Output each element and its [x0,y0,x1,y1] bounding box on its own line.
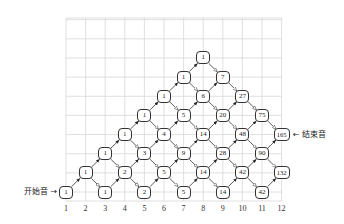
lattice-node: 1 [137,109,151,122]
lattice-node: 7 [216,71,230,84]
lattice-node: 9 [177,147,191,160]
column-label: 10 [234,204,250,214]
lattice-node: 1 [98,186,112,199]
lattice-node: 20 [216,109,230,122]
lattice-node: 42 [255,186,269,199]
end-label: 结束音 [302,130,326,139]
lattice-node: 14 [196,128,210,141]
column-label: 9 [215,204,231,214]
column-label: 7 [176,204,192,214]
lattice-node: 90 [255,147,269,160]
lattice-node: 1 [59,186,73,199]
lattice-node: 75 [255,109,269,122]
lattice-node: 132 [274,166,290,179]
lattice-node: 5 [157,166,171,179]
lattice-node: 48 [235,128,249,141]
column-label: 3 [97,204,113,214]
end-label-group: ← 结束音 [293,130,326,140]
lattice-diagram: 1125144212514421321392890141448165152075… [0,0,344,224]
column-label: 2 [78,204,94,214]
column-label: 12 [274,204,290,214]
column-label: 5 [136,204,152,214]
lattice-node: 14 [196,166,210,179]
end-arrow-icon: ← [293,130,300,139]
start-label-group: 开始音 → [24,187,57,197]
column-label: 4 [117,204,133,214]
lattice-node: 2 [137,186,151,199]
lattice-node: 6 [196,90,210,103]
lattice-node: 1 [98,147,112,160]
column-label: 6 [156,204,172,214]
lattice-node: 28 [216,147,230,160]
lattice-node: 1 [177,71,191,84]
lattice-node: 1 [196,51,210,64]
lattice-node: 165 [274,128,290,141]
lattice-node: 1 [118,128,132,141]
lattice-node: 3 [137,147,151,160]
column-label: 1 [58,204,74,214]
lattice-node: 4 [157,128,171,141]
lattice-node: 2 [118,166,132,179]
column-label: 8 [195,204,211,214]
lattice-node: 42 [235,166,249,179]
lattice-node: 27 [235,90,249,103]
lattice-node: 5 [177,186,191,199]
lattice-node: 14 [216,186,230,199]
column-label: 11 [254,204,270,214]
lattice-node: 1 [157,90,171,103]
start-arrow-icon: → [51,187,58,196]
lattice-node: 1 [79,166,93,179]
lattice-node: 5 [177,109,191,122]
start-label: 开始音 [24,187,48,196]
